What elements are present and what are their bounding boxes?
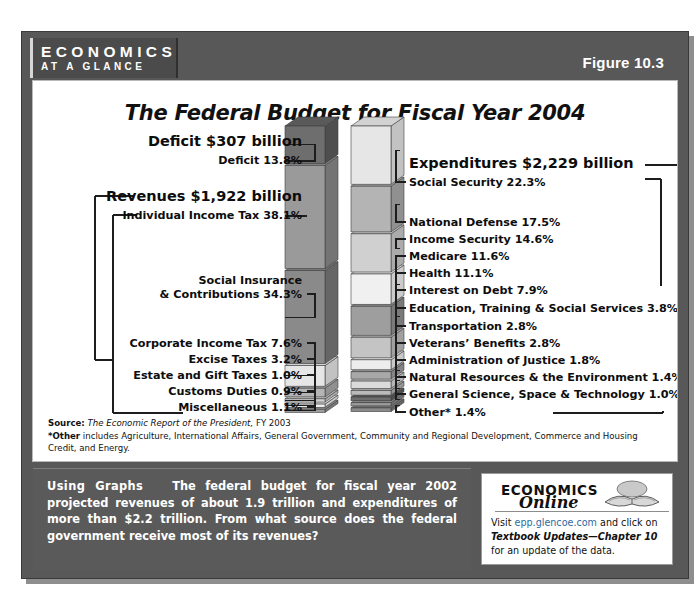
chart-panel: The Federal Budget for Fiscal Year 2004 … <box>32 80 678 462</box>
label-transportation: Transportation 2.8% <box>409 320 537 333</box>
caption-text: Using Graphs The federal budget for fisc… <box>47 478 457 544</box>
label-customs-duties: Customs Duties 0.9% <box>73 385 302 398</box>
leader-right-0 <box>396 151 406 182</box>
label-corporate-income-tax: Corporate Income Tax 7.6% <box>73 337 302 350</box>
eo-instructions: Visit epp.glencoe.com and click on Textb… <box>491 516 667 558</box>
economics-online-box: ECONOMICS Online Visit epp.glencoe.com a… <box>481 473 673 565</box>
leader-right-10 <box>396 377 406 394</box>
label-health: Health 11.1% <box>409 267 493 280</box>
leader-right-4 <box>396 273 406 316</box>
label-deficit-pct: Deficit 13.8% <box>90 154 302 167</box>
other-note-text: includes Agriculture, International Affa… <box>48 431 638 454</box>
figure-root: ECONOMICS AT A GLANCE Figure 10.3 The Fe… <box>0 0 700 592</box>
eo-title-online: Online <box>519 493 579 512</box>
caption-lead: Using Graphs <box>47 479 143 493</box>
source-year: FY 2003 <box>253 418 291 428</box>
revenues-heading: Revenues $1,922 billion <box>90 190 302 203</box>
using-graphs-caption: Using Graphs The federal budget for fisc… <box>33 468 471 570</box>
label-income-security: Income Security 14.6% <box>409 233 554 246</box>
eo-visit-prefix: Visit <box>491 517 515 528</box>
brand-subtitle-at-a-glance: AT A GLANCE <box>41 61 145 72</box>
brand-banner: ECONOMICS AT A GLANCE <box>30 38 178 78</box>
eo-divider <box>495 511 669 512</box>
label-individual-income-tax: Individual Income Tax 38.1% <box>73 209 302 222</box>
other-label: *Other <box>48 431 80 441</box>
source-line: Source: The Economic Report of the Presi… <box>48 417 664 430</box>
eo-italic-part: Textbook Updates—Chapter 10 <box>491 531 657 542</box>
label-general-science: General Science, Space & Technology 1.0% <box>409 388 678 401</box>
label-excise-taxes: Excise Taxes 3.2% <box>73 353 302 366</box>
label-administration-of-justice: Administration of Justice 1.8% <box>409 354 600 367</box>
leader-right-7 <box>396 326 406 371</box>
other-note-line: *Other includes Agriculture, Internation… <box>48 430 664 455</box>
eo-visit-mid: and click on <box>597 517 658 528</box>
label-national-defense: National Defense 17.5% <box>409 216 560 229</box>
leader-right-8 <box>396 343 406 380</box>
label-natural-resources: Natural Resources & the Environment 1.4% <box>409 371 678 384</box>
economics-online-logo: ECONOMICS Online <box>491 480 663 514</box>
label-estate-gift-taxes: Estate and Gift Taxes 1.0% <box>73 369 302 382</box>
source-notes: Source: The Economic Report of the Presi… <box>48 417 664 455</box>
leader-right-3 <box>396 256 406 285</box>
label-veterans-benefits: Veterans’ Benefits 2.8% <box>409 337 560 350</box>
label-social-security: Social Security 22.3% <box>409 176 545 189</box>
leader-right-12 <box>396 405 406 412</box>
label-medicare: Medicare 11.6% <box>409 250 510 263</box>
label-social-insurance-line1: Social Insurance <box>73 274 302 288</box>
source-label: Source: <box>48 418 85 428</box>
figure-number-label: Figure 10.3 <box>583 54 664 71</box>
eo-visit-suffix: for an update of the data. <box>491 545 615 556</box>
expenditures-heading: Expenditures $2,229 billion <box>409 157 634 170</box>
leader-right-1 <box>396 205 406 222</box>
open-book-icon <box>603 480 661 512</box>
label-interest-on-debt: Interest on Debt 7.9% <box>409 284 548 297</box>
label-miscellaneous: Miscellaneous 1.1% <box>73 401 302 414</box>
brand-title-economics: ECONOMICS <box>41 44 176 60</box>
leader-right-9 <box>396 360 406 388</box>
leader-right-2 <box>396 239 406 248</box>
eo-link[interactable]: epp.glencoe.com <box>515 517 597 528</box>
label-education-training: Education, Training & Social Services 3.… <box>409 302 678 315</box>
label-social-insurance-line2: & Contributions 34.3% <box>73 288 302 302</box>
source-title: The Economic Report of the President, <box>88 418 254 428</box>
deficit-heading: Deficit $307 billion <box>90 135 302 148</box>
